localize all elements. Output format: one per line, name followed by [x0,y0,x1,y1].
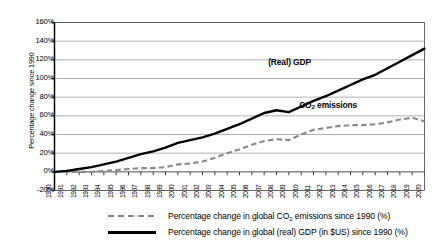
annotation-co2-text: CO [299,100,311,110]
legend-label-gdp: Percentage change in global (real) GDP (… [168,227,408,237]
tick-marks [51,23,424,191]
annotation-co2-suffix: emissions [315,100,357,110]
legend-item-gdp: Percentage change in global (real) GDP (… [106,224,408,240]
legend-label-co2: Percentage change in global CO2 emission… [168,211,390,221]
chart-legend: Percentage change in global CO2 emission… [0,206,438,248]
plot-area: Percentage change since 1990 160%140%120… [0,0,438,205]
plot-frame [55,23,425,191]
chart-figure: Percentage change since 1990 160%140%120… [0,0,438,248]
legend-label-gdp-prefix: Percentage change in global (real) GDP (… [168,227,408,237]
legend-label-co2-suffix: emissions since 1990 (%) [293,211,391,221]
legend-label-co2-subscript: 2 [289,215,292,222]
annotation-gdp: (Real) GDP [268,57,311,67]
legend-key-solid-icon [106,227,158,237]
legend-key-dashed-icon [106,211,158,221]
annotation-co2-subscript: 2 [312,103,315,110]
legend-item-co2: Percentage change in global CO2 emission… [106,208,390,224]
chart-canvas [0,0,438,205]
legend-label-co2-prefix: Percentage change in global CO [168,211,289,221]
annotation-gdp-text: (Real) GDP [268,57,311,67]
annotation-co2: CO2 emissions [299,100,357,110]
